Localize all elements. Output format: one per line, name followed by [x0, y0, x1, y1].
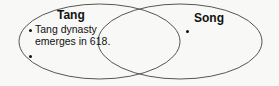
song-title: Song: [194, 11, 224, 25]
tang-title: Tang: [57, 8, 85, 22]
bullet-icon: [186, 30, 189, 33]
tang-item-1-line-2: emerges in 618.: [35, 36, 110, 48]
bullet-icon: [29, 29, 32, 32]
bullet-icon: [29, 55, 32, 58]
tang-item-1-line-1: Tang dynasty: [35, 24, 97, 36]
